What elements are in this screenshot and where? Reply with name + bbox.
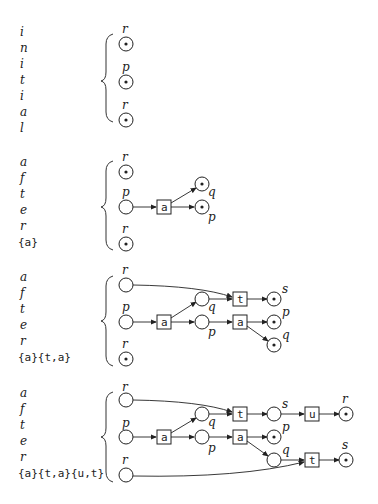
token bbox=[344, 412, 347, 415]
token bbox=[200, 205, 203, 208]
label-letter: i bbox=[20, 25, 24, 39]
transition-label: t bbox=[237, 293, 244, 306]
place-label: r bbox=[122, 150, 129, 164]
step-label: {a} bbox=[18, 236, 38, 249]
place-label: q bbox=[282, 328, 290, 342]
place-q bbox=[195, 407, 209, 421]
place-q bbox=[195, 292, 209, 306]
arc bbox=[171, 302, 196, 318]
label-letter: r bbox=[20, 334, 27, 348]
place-label: p bbox=[122, 300, 130, 314]
place-s bbox=[267, 407, 281, 421]
token bbox=[124, 357, 127, 360]
label-letter: e bbox=[20, 203, 27, 217]
transition-label: a bbox=[161, 201, 168, 214]
place-label: q bbox=[208, 300, 216, 314]
label-letter: n bbox=[20, 41, 28, 55]
place-label: q bbox=[208, 415, 216, 429]
place-p bbox=[119, 430, 133, 444]
place-q bbox=[267, 453, 281, 467]
place-r bbox=[119, 468, 133, 482]
place-label: p bbox=[208, 210, 216, 224]
token bbox=[272, 435, 275, 438]
label-letter: a bbox=[20, 155, 27, 169]
token bbox=[344, 458, 347, 461]
label-letter: f bbox=[19, 286, 27, 300]
arc bbox=[247, 326, 268, 341]
panel-initial: i n i t i a l r p r bbox=[20, 22, 133, 135]
transition-label: a bbox=[161, 431, 168, 444]
label-letter: t bbox=[20, 73, 25, 87]
transition-label: u bbox=[309, 408, 316, 421]
token bbox=[124, 118, 127, 121]
place-label: q bbox=[208, 185, 216, 199]
brace bbox=[101, 276, 113, 366]
place-label: r bbox=[122, 98, 129, 112]
label-letter: i bbox=[20, 57, 24, 71]
step-label: {a}{t,a}{u,t} bbox=[18, 467, 104, 480]
token bbox=[124, 242, 127, 245]
place-label: r bbox=[122, 22, 129, 36]
label-letter: a bbox=[20, 386, 27, 400]
arc bbox=[133, 285, 232, 297]
token bbox=[124, 80, 127, 83]
transition-label: a bbox=[161, 316, 168, 329]
place-label: p bbox=[282, 305, 290, 319]
token bbox=[124, 42, 127, 45]
label-letter: t bbox=[20, 302, 25, 316]
place-label: r bbox=[122, 453, 129, 467]
place-label: p bbox=[122, 416, 130, 430]
label-letter: i bbox=[20, 89, 24, 103]
place-label: p bbox=[208, 441, 216, 455]
arc bbox=[133, 400, 232, 412]
step-label: {a}{t,a} bbox=[18, 351, 71, 364]
place-r bbox=[119, 393, 133, 407]
place-p bbox=[119, 315, 133, 329]
side-label: a f t e r {a} bbox=[18, 155, 38, 249]
side-label: i n i t i a l bbox=[20, 25, 28, 135]
brace bbox=[101, 161, 113, 250]
place-p bbox=[195, 315, 209, 329]
token bbox=[272, 320, 275, 323]
place-r bbox=[119, 278, 133, 292]
panel-after-a-ta: a f t e r {a}{t,a} r p a q p t a s bbox=[18, 263, 290, 366]
token bbox=[272, 297, 275, 300]
place-label: r bbox=[122, 263, 129, 277]
label-letter: l bbox=[20, 121, 24, 135]
label-letter: f bbox=[19, 402, 27, 416]
place-label: s bbox=[342, 438, 348, 452]
label-letter: t bbox=[20, 187, 25, 201]
place-label: r bbox=[342, 392, 349, 406]
side-label: a f t e r {a}{t,a}{u,t} bbox=[18, 386, 104, 480]
brace bbox=[101, 34, 113, 122]
arc bbox=[247, 441, 268, 456]
arc bbox=[171, 418, 196, 433]
label-letter: e bbox=[20, 318, 27, 332]
place-label: r bbox=[122, 222, 129, 236]
place-label: p bbox=[122, 60, 130, 74]
label-letter: r bbox=[20, 219, 27, 233]
label-letter: t bbox=[20, 418, 25, 432]
petri-net-diagram: i n i t i a l r p r a f t e r {a} r bbox=[0, 0, 378, 504]
side-label: a f t e r {a}{t,a} bbox=[18, 270, 71, 364]
arc bbox=[171, 188, 196, 203]
place-label: q bbox=[282, 443, 290, 457]
place-label: p bbox=[282, 420, 290, 434]
label-letter: f bbox=[19, 171, 27, 185]
panel-after-a-ta-ut: a f t e r {a}{t,a}{u,t} r p a q p t a s bbox=[18, 380, 353, 482]
place-label: r bbox=[122, 337, 129, 351]
token bbox=[272, 343, 275, 346]
place-label: s bbox=[282, 397, 288, 411]
panel-after-a: a f t e r {a} r p a q p r bbox=[18, 150, 216, 251]
token bbox=[200, 182, 203, 185]
label-letter: a bbox=[20, 270, 27, 284]
label-letter: a bbox=[20, 105, 27, 119]
transition-label: t bbox=[309, 454, 316, 467]
place-p bbox=[119, 200, 133, 214]
token bbox=[124, 170, 127, 173]
place-p bbox=[195, 430, 209, 444]
transition-label: a bbox=[237, 431, 244, 444]
place-label: p bbox=[122, 185, 130, 199]
place-label: s bbox=[282, 282, 288, 296]
label-letter: e bbox=[20, 434, 27, 448]
